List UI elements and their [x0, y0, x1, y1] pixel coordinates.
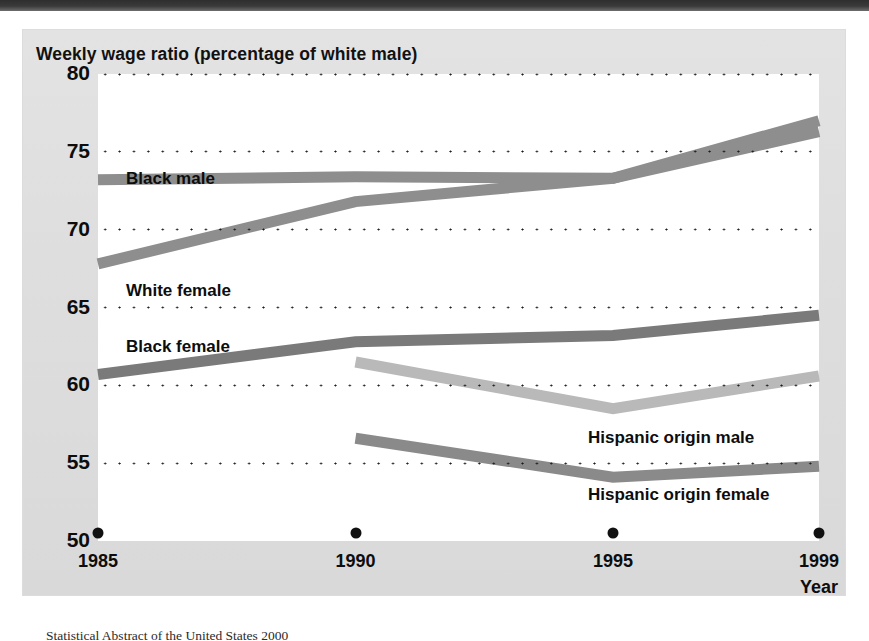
y-tick-label-80: 80 — [42, 61, 90, 85]
gridline-80 — [98, 73, 819, 76]
x-axis-marker-1985 — [93, 528, 104, 539]
x-axis-marker-1995 — [608, 528, 619, 539]
y-axis-tick-labels: 80757065605550 — [38, 74, 90, 541]
x-axis-marker-1990 — [350, 528, 361, 539]
y-tick-label-60: 60 — [42, 372, 90, 396]
gridline-65 — [98, 306, 819, 309]
figure-caption: Statistical Abstract of the United State… — [46, 628, 846, 641]
x-tick-label-1990: 1990 — [335, 551, 375, 572]
series-line-white_female — [98, 121, 819, 264]
x-axis-title: Year — [800, 577, 838, 598]
plot-area — [98, 74, 819, 541]
y-tick-label-50: 50 — [42, 528, 90, 552]
figure-page: Weekly wage ratio (percentage of white m… — [0, 0, 869, 641]
series-label-hispanic_male: Hispanic origin male — [588, 428, 754, 448]
y-tick-label-75: 75 — [42, 139, 90, 163]
x-tick-label-1999: 1999 — [799, 551, 839, 572]
y-tick-label-65: 65 — [42, 295, 90, 319]
gridline-60 — [98, 384, 819, 387]
series-label-black_male: Black male — [126, 169, 215, 189]
chart-title: Weekly wage ratio (percentage of white m… — [36, 44, 417, 65]
x-tick-label-1985: 1985 — [78, 551, 118, 572]
y-tick-label-70: 70 — [42, 217, 90, 241]
series-label-hispanic_female: Hispanic origin female — [588, 485, 769, 505]
series-label-white_female: White female — [126, 281, 231, 301]
x-axis-marker-1999 — [814, 528, 825, 539]
y-tick-label-55: 55 — [42, 450, 90, 474]
gridline-70 — [98, 228, 819, 231]
gridline-75 — [98, 150, 819, 153]
x-tick-label-1995: 1995 — [593, 551, 633, 572]
series-label-black_female: Black female — [126, 337, 230, 357]
page-top-band — [0, 0, 869, 11]
gridline-55 — [98, 462, 819, 465]
